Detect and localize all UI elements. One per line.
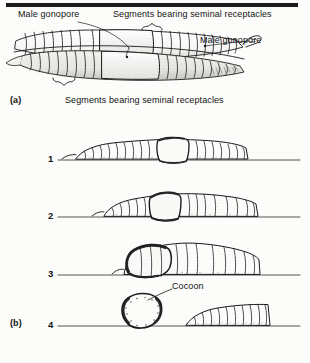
label-segments-seminal-receptacles-bottom: Segments bearing seminal receptacles bbox=[65, 95, 224, 105]
step-number-1: 1 bbox=[48, 153, 53, 164]
panel-a-key: (a) bbox=[10, 95, 21, 105]
step-number-4: 4 bbox=[48, 319, 53, 330]
label-cocoon: Cocoon bbox=[172, 281, 204, 291]
figure-earthworm-reproduction: Male gonopore Segments bearing seminal r… bbox=[0, 0, 310, 363]
panel-b-key: (b) bbox=[10, 318, 22, 328]
label-segments-seminal-receptacles-top: Segments bearing seminal receptacles bbox=[113, 9, 272, 19]
step-number-3: 3 bbox=[48, 268, 53, 279]
panel-b-illustration bbox=[0, 120, 310, 363]
step-number-2: 2 bbox=[48, 210, 53, 221]
label-male-gonopore-left: Male gonopore bbox=[18, 9, 79, 19]
label-male-gonopore-right: Male gonopore bbox=[200, 35, 261, 45]
